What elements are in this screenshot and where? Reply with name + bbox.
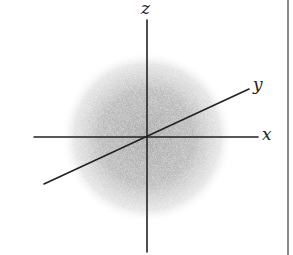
y-axis-label: y [253,76,263,93]
panel-border [287,0,289,255]
x-axis-label: x [262,126,272,143]
z-axis-label: z [141,0,150,17]
diagram-canvas [0,0,293,255]
coordinate-diagram: z y x [0,0,293,255]
